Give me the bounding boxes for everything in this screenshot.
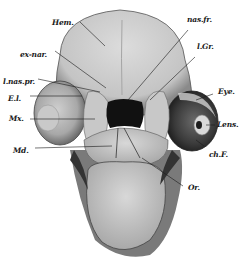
mandibular-region xyxy=(84,128,168,166)
label-ex-nar: ex-nar. xyxy=(20,51,47,59)
label-mx: Mx. xyxy=(9,115,24,123)
label-lens: Lens. xyxy=(217,121,238,129)
label-hem: Hem. xyxy=(52,19,74,27)
label-ch-f: ch.F. xyxy=(209,151,228,159)
label-or: Or. xyxy=(188,184,200,192)
label-eye: Eye. xyxy=(218,88,235,96)
label-el: E.l. xyxy=(8,95,21,103)
label-l-nas-pr: l.nas.pr. xyxy=(3,78,35,86)
oral-cavity xyxy=(106,99,143,128)
label-nas-fr: nas.fr. xyxy=(187,16,212,24)
label-l-gr: l.Gr. xyxy=(197,43,214,51)
embryo-head-illustration xyxy=(0,0,245,262)
label-md: Md. xyxy=(13,147,29,155)
